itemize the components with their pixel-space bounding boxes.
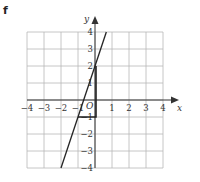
y-tick-label: −4 [80, 163, 93, 173]
origin-label: O [86, 101, 94, 111]
x-tick-label: −2 [55, 103, 68, 113]
x-tick-label: −4 [21, 103, 34, 113]
y-tick-label: −2 [80, 129, 93, 139]
x-axis-label: x [177, 103, 182, 113]
y-tick-label: −3 [80, 146, 93, 156]
y-tick-label: 4 [88, 27, 93, 37]
y-axis-arrow-icon [92, 16, 99, 24]
x-tick-label: 2 [126, 103, 131, 113]
x-tick-label: 3 [143, 103, 148, 113]
y-tick-label: 3 [88, 44, 93, 54]
x-tick-label: 1 [109, 103, 114, 113]
x-tick-label: −3 [38, 103, 51, 113]
y-tick-label: 2 [88, 61, 93, 71]
coordinate-plot: xyO−4−3−2−112344321−1−2−3−4 [0, 0, 200, 182]
y-axis-label: y [83, 14, 90, 24]
x-tick-label: 4 [160, 103, 165, 113]
